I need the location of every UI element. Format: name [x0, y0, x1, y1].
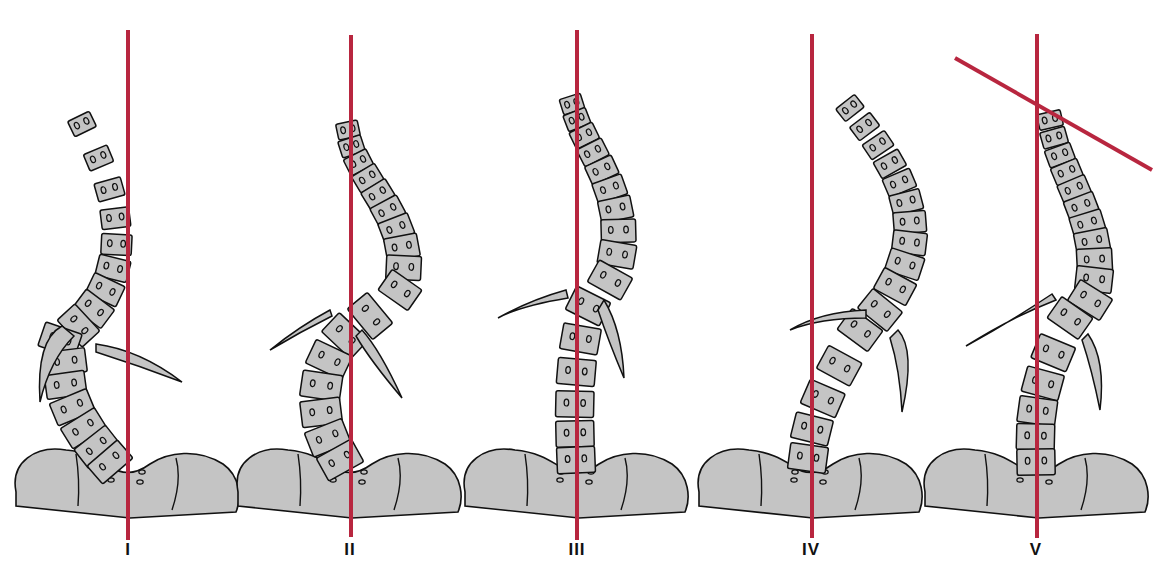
vertebral-body	[559, 323, 601, 355]
panel-label-type-3: III	[568, 540, 585, 560]
vertebral-body	[83, 145, 114, 171]
vertebra	[67, 111, 96, 137]
vertebra	[556, 420, 595, 447]
vertebra	[816, 345, 862, 386]
vertebra	[601, 219, 636, 243]
rib	[96, 344, 182, 382]
panel-label-type-1: I	[125, 540, 131, 560]
vertebral-body	[800, 379, 845, 418]
rib	[498, 290, 568, 318]
vertebral-body	[601, 219, 636, 243]
vertebra	[559, 323, 601, 355]
panel-label-type-2: II	[344, 540, 355, 560]
rib	[356, 330, 402, 398]
rib	[1082, 334, 1102, 410]
vertebra	[800, 379, 845, 418]
vertebra	[94, 177, 125, 202]
vertebra	[1021, 366, 1065, 401]
rib	[890, 330, 908, 412]
vertebra	[787, 443, 828, 474]
vertebral-body	[67, 111, 96, 137]
panel-label-type-5: V	[1030, 540, 1042, 560]
vertebral-body	[787, 443, 828, 474]
vertebral-body	[1021, 366, 1065, 401]
diagram-canvas	[0, 0, 1176, 579]
panel-label-type-4: IV	[802, 540, 820, 560]
vertebra	[83, 145, 114, 171]
vertebral-body	[556, 420, 595, 447]
vertebral-body	[555, 391, 594, 418]
vertebra	[555, 391, 594, 418]
vertebral-body	[836, 94, 865, 121]
vertebra	[836, 94, 865, 121]
scoliosis-classification-diagram: I II III IV V	[0, 0, 1176, 579]
rib	[598, 300, 624, 378]
vertebral-body	[816, 345, 862, 386]
vertebral-body	[94, 177, 125, 202]
